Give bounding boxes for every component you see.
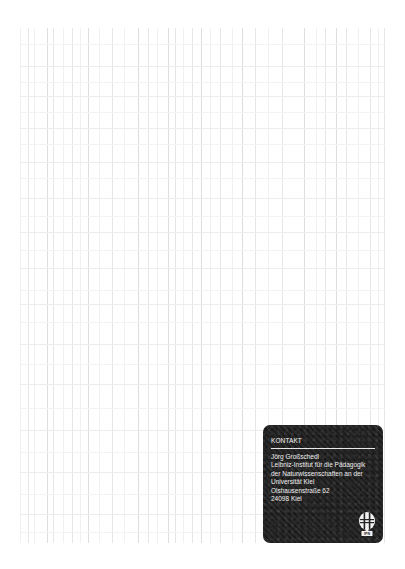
grid-line: [20, 322, 385, 323]
grid-line: [168, 28, 169, 543]
grid-line: [20, 344, 385, 345]
contact-street: Olshausenstraße 62: [271, 487, 375, 495]
grid-line: [20, 44, 385, 45]
grid-line: [20, 290, 385, 291]
grid-line: [192, 28, 193, 543]
grid-line: [88, 28, 89, 543]
grid-line: [99, 28, 100, 543]
grid-line: [20, 96, 385, 97]
grid-line: [210, 28, 211, 543]
grid-line: [20, 144, 385, 145]
grid-line: [175, 28, 176, 543]
grid-line: [384, 28, 385, 543]
grid-line: [138, 28, 139, 543]
grid-line: [20, 112, 385, 113]
grid-line: [20, 232, 385, 233]
contact-name: Jörg Großschedl: [271, 453, 375, 461]
grid-line: [20, 28, 21, 543]
grid-line: [72, 28, 73, 543]
grid-line: [148, 28, 149, 543]
grid-line: [255, 28, 256, 543]
contact-card: KONTAKT Jörg Großschedl Leibniz-Institut…: [263, 425, 383, 543]
grid-line: [20, 82, 385, 83]
ipn-logo-icon: IPN: [358, 511, 376, 537]
contact-institution-line-3: Universität Kiel: [271, 478, 375, 486]
svg-text:IPN: IPN: [364, 532, 370, 536]
grid-line: [20, 268, 385, 269]
grid-line: [20, 198, 385, 199]
grid-line: [183, 28, 184, 543]
contact-city: 24098 Kiel: [271, 495, 375, 503]
grid-line: [242, 28, 243, 543]
grid-line: [20, 408, 385, 409]
grid-line: [80, 28, 81, 543]
grid-line: [20, 384, 385, 385]
grid-line: [20, 304, 385, 305]
contact-institution-line-1: Leibniz-Institut für die Pädagogik: [271, 461, 375, 469]
grid-line: [112, 28, 113, 543]
grid-line: [201, 28, 202, 543]
contact-institution-line-2: der Naturwissenschaften an der: [271, 470, 375, 478]
grid-line: [53, 28, 54, 543]
grid-line: [20, 128, 385, 129]
grid-line: [157, 28, 158, 543]
grid-line: [220, 28, 221, 543]
grid-line: [20, 216, 385, 217]
grid-line: [47, 28, 48, 543]
grid-line: [34, 28, 35, 543]
grid-line: [20, 162, 385, 163]
grid-line: [20, 66, 385, 67]
grid-line: [20, 250, 385, 251]
grid-line: [20, 364, 385, 365]
contact-card-divider: [271, 448, 375, 449]
grid-line: [63, 28, 64, 543]
document-page: KONTAKT Jörg Großschedl Leibniz-Institut…: [0, 0, 405, 569]
grid-line: [124, 28, 125, 543]
grid-line: [232, 28, 233, 543]
grid-line: [20, 178, 385, 179]
grid-line: [28, 28, 29, 543]
contact-card-title: KONTAKT: [271, 437, 375, 445]
